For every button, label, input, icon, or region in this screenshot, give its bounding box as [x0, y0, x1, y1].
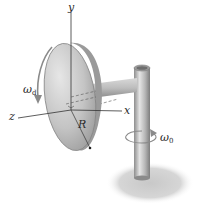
omega-disk-label: ωd: [23, 84, 36, 97]
omega-post-symbol: ω: [160, 131, 169, 144]
omega-post-label: ω0: [160, 132, 173, 145]
disk-diagram: y z x R ωd ω0: [0, 0, 199, 210]
omega-post-subscript: 0: [169, 137, 173, 145]
z-axis-label: z: [9, 111, 15, 122]
diagram-graphic: [0, 0, 199, 210]
y-axis-label: y: [68, 2, 74, 13]
omega-disk-symbol: ω: [23, 83, 32, 96]
radius-label: R: [78, 119, 86, 130]
radius-end-dot: [89, 147, 92, 150]
omega-disk-subscript: d: [32, 89, 36, 97]
x-axis-label: x: [124, 105, 130, 116]
